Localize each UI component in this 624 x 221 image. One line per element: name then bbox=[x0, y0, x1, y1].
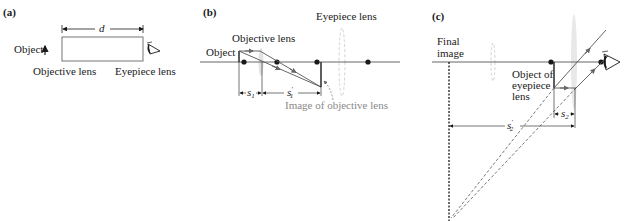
s2-prime-label: s′2 bbox=[507, 118, 514, 133]
panel-b-label: (b) bbox=[203, 6, 217, 19]
focal-point bbox=[314, 59, 319, 64]
microscope-tube bbox=[62, 37, 143, 61]
eye-icon bbox=[602, 51, 620, 70]
objective-lens-label-a: Objective lens bbox=[33, 65, 96, 77]
object-label-a: Object bbox=[14, 43, 43, 55]
image-of-objective-label: Image of objective lens bbox=[285, 99, 388, 111]
panel-b: (b) Eyepiece lens Objective lens Object bbox=[200, 6, 400, 111]
eye-icon bbox=[147, 42, 160, 54]
ray-center bbox=[239, 51, 321, 87]
s1-label: s1 bbox=[247, 86, 255, 100]
final-image-label-2: image bbox=[437, 47, 464, 59]
virtual-ray bbox=[451, 88, 554, 218]
object-of-eyepiece-label-3: lens bbox=[512, 90, 530, 102]
s1-prime-label: s′1 bbox=[287, 85, 293, 100]
eyepiece-lens-label-a: Eyepiece lens bbox=[115, 65, 176, 77]
s2-label: s2 bbox=[561, 107, 569, 121]
d-label: d bbox=[99, 22, 105, 34]
panel-c: (c) Final image Object of eyepiece lens bbox=[432, 10, 620, 221]
ray-center-c bbox=[554, 30, 606, 88]
final-image-label-1: Final bbox=[437, 35, 460, 47]
panel-a: (a) d Object Objective lens Eyepiece len… bbox=[3, 6, 176, 77]
panel-a-label: (a) bbox=[3, 6, 16, 19]
focal-point bbox=[548, 59, 553, 64]
eyepiece-lens-label-b: Eyepiece lens bbox=[316, 10, 377, 22]
focal-point bbox=[241, 59, 246, 64]
focal-point bbox=[365, 59, 370, 64]
object-label-b: Object bbox=[206, 46, 235, 58]
objective-lens-label-b: Objective lens bbox=[232, 32, 295, 44]
virtual-ray bbox=[453, 88, 576, 218]
focal-point bbox=[598, 59, 603, 64]
panel-c-label: (c) bbox=[432, 10, 445, 23]
microscope-diagram: (a) d Object Objective lens Eyepiece len… bbox=[0, 0, 624, 221]
